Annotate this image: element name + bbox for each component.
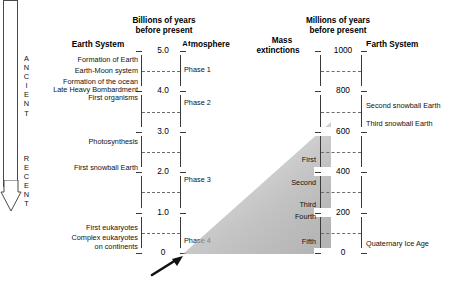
left-earth-system-header: Earth System [52, 40, 144, 50]
right-tick-mark [315, 132, 321, 133]
left-event-label: on continents [30, 243, 138, 252]
right-dashed-line [321, 192, 361, 193]
left-event-label: First snowball Earth [30, 164, 138, 173]
recent-letter: C [16, 172, 37, 181]
right-tick-mark [361, 213, 367, 214]
left-tick-mark [180, 91, 186, 92]
left-tick-mark [136, 132, 142, 133]
right-event-label: Second snowball Earth [366, 102, 441, 111]
left-tick-mark [180, 51, 186, 52]
right-tick-mark [361, 51, 367, 52]
right-tick-mark [361, 91, 367, 92]
mass-extinction-label: Fifth [236, 238, 316, 247]
right-tick-mark [361, 132, 367, 133]
right-axis-title-line2: before present [272, 26, 404, 36]
left-tick-mark [136, 253, 142, 254]
mass-extinction-label: Third [236, 201, 316, 210]
left-dashed-line [142, 152, 180, 153]
recent-letter: E [16, 181, 37, 190]
recent-letter: T [16, 199, 37, 208]
left-event-label: Photosynthesis [30, 138, 138, 147]
right-tick-mark [361, 253, 367, 254]
right-dashed-line [321, 112, 361, 113]
right-tick-mark [361, 172, 367, 173]
left-tick-mark [136, 51, 142, 52]
wedge-gradient-overlay [183, 122, 331, 254]
left-event-label: First eukaryotes [30, 224, 138, 233]
ancient-letter: T [16, 109, 37, 118]
mass-extinction-label: First [236, 156, 316, 165]
right-tick-mark [315, 172, 321, 173]
left-dashed-line [142, 233, 180, 234]
left-event-label: Formation of Earth [30, 56, 138, 65]
atmosphere-phase-label: Phase 1 [184, 66, 211, 75]
left-axis-title-line1: Billions of years [98, 16, 230, 26]
scale-expansion-pointer-icon [150, 256, 186, 278]
left-axis-title-line2: before present [98, 26, 230, 36]
recent-letter: R [16, 154, 37, 163]
left-tick-mark [136, 213, 142, 214]
right-dashed-line [321, 152, 361, 153]
right-axis-title-line1: Millions of years [272, 16, 404, 26]
mass-extinctions-header-line2: extinctions [240, 46, 316, 56]
recent-letter: N [16, 190, 37, 199]
mass-extinction-label: Fourth [236, 213, 316, 222]
right-event-label: Third snowball Earth [366, 120, 433, 129]
right-tick-mark [315, 253, 321, 254]
left-dashed-line [142, 71, 180, 72]
atmosphere-phase-label: Phase 2 [184, 99, 211, 108]
recent-word: RECENT [16, 154, 38, 209]
right-earth-system-header: Earth System [366, 40, 456, 50]
right-tick-mark [315, 91, 321, 92]
left-dashed-line [142, 192, 180, 193]
left-dashed-line [142, 112, 180, 113]
mass-extinction-label: Second [236, 179, 316, 188]
mass-extinctions-header-line1: Mass [248, 36, 316, 46]
right-tick-mark [315, 51, 321, 52]
left-event-label: First organisms [30, 94, 138, 103]
oxygen-rise-wedge [183, 122, 331, 254]
right-event-label: Quaternary Ice Age [366, 240, 429, 249]
right-dashed-line [321, 71, 361, 72]
right-dashed-line [321, 233, 361, 234]
left-event-label: Earth-Moon system [30, 67, 138, 76]
